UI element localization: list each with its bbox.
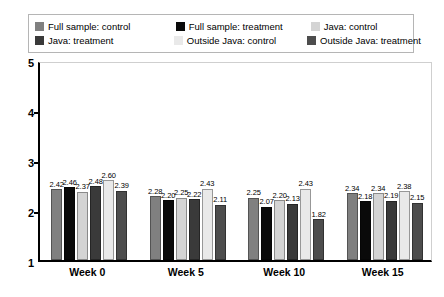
bar-slot: 2.60 <box>103 63 114 260</box>
bar-value-label: 2.38 <box>397 183 412 191</box>
bar[interactable] <box>373 193 384 260</box>
bar-slot: 2.37 <box>77 63 88 260</box>
bar[interactable] <box>313 219 324 260</box>
x-axis-tick-label: Week 0 <box>69 266 105 278</box>
bar-value-label: 2.43 <box>298 180 313 188</box>
bar-value-label: 1.82 <box>311 211 326 219</box>
legend-item-label: Java: control <box>324 21 378 32</box>
y-axis-tick-label: 5 <box>28 58 34 69</box>
legend-swatch-icon <box>311 22 320 31</box>
bar-group-bars: 2.252.072.202.132.431.82 <box>237 63 336 260</box>
bar-value-label: 2.13 <box>285 195 300 203</box>
bar-slot: 2.48 <box>90 63 101 260</box>
bar[interactable] <box>103 180 114 260</box>
bar[interactable] <box>248 198 259 261</box>
bar-slot: 2.43 <box>202 63 213 260</box>
bar-slot: 2.20 <box>163 63 174 260</box>
legend-item-full-sample-treatment: Full sample: treatment <box>176 21 311 32</box>
bar-slot: 2.28 <box>150 63 161 260</box>
plot-area: 123452.422.462.372.482.602.392.282.202.2… <box>38 62 432 262</box>
bar[interactable] <box>116 191 127 261</box>
chart-legend: Full sample: control Full sample: treatm… <box>28 14 414 53</box>
legend-swatch-icon <box>174 36 183 45</box>
bar[interactable] <box>202 189 213 261</box>
bar[interactable] <box>386 201 397 261</box>
bar[interactable] <box>360 201 371 260</box>
bar-slot: 2.19 <box>386 63 397 260</box>
bar[interactable] <box>274 200 285 260</box>
bar-slot: 2.42 <box>51 63 62 260</box>
bar-slot: 2.34 <box>347 63 358 260</box>
legend-item-java-control: Java: control <box>311 21 407 32</box>
bar[interactable] <box>77 192 88 261</box>
bar-value-label: 2.60 <box>101 172 116 180</box>
bar-group: 2.342.182.342.192.382.15 <box>336 63 435 260</box>
bar-group: 2.282.202.252.222.432.11 <box>139 63 238 260</box>
bar-value-label: 2.19 <box>384 192 399 200</box>
bar-slot: 2.20 <box>274 63 285 260</box>
legend-row: Java: treatment Outside Java: control Ou… <box>35 33 407 47</box>
bar[interactable] <box>176 198 187 261</box>
bar-slot: 2.18 <box>360 63 371 260</box>
legend-item-java-treatment: Java: treatment <box>35 35 174 46</box>
bar-slot: 2.43 <box>300 63 311 260</box>
bar[interactable] <box>90 186 101 260</box>
legend-swatch-icon <box>35 22 44 31</box>
legend-item-outside-java-treatment: Outside Java: treatment <box>307 35 407 46</box>
bar-slot: 2.11 <box>215 63 226 260</box>
bar-slot: 2.46 <box>64 63 75 260</box>
legend-item-full-sample-control: Full sample: control <box>35 21 176 32</box>
x-axis-tick-label: Week 15 <box>362 266 404 278</box>
bar-value-label: 2.18 <box>358 193 373 201</box>
bar-slot: 2.25 <box>176 63 187 260</box>
bar-slot: 2.25 <box>248 63 259 260</box>
bar[interactable] <box>189 199 200 260</box>
legend-item-outside-java-control: Outside Java: control <box>174 35 307 46</box>
legend-item-label: Full sample: control <box>48 21 130 32</box>
bar[interactable] <box>64 187 75 260</box>
bar-group-bars: 2.282.202.252.222.432.11 <box>139 63 238 260</box>
bar[interactable] <box>287 204 298 261</box>
bar-value-label: 2.15 <box>410 194 425 202</box>
bar-slot: 2.39 <box>116 63 127 260</box>
bar-slot: 2.38 <box>399 63 410 260</box>
bar-slot: 2.15 <box>412 63 423 260</box>
bar-slot: 2.13 <box>287 63 298 260</box>
bar[interactable] <box>261 207 272 261</box>
legend-swatch-icon <box>35 36 44 45</box>
legend-item-label: Full sample: treatment <box>189 21 283 32</box>
bar[interactable] <box>163 200 174 260</box>
legend-swatch-icon <box>307 36 316 45</box>
bar-slot: 2.34 <box>373 63 384 260</box>
bar-value-label: 2.39 <box>114 182 129 190</box>
x-axis-tick-label: Week 5 <box>168 266 204 278</box>
bar[interactable] <box>51 189 62 260</box>
bar-slot: 1.82 <box>313 63 324 260</box>
bar-group-bars: 2.342.182.342.192.382.15 <box>336 63 435 260</box>
bar[interactable] <box>399 191 410 260</box>
bar-value-label: 2.43 <box>200 180 215 188</box>
bar[interactable] <box>150 196 161 260</box>
bar-group: 2.422.462.372.482.602.39 <box>40 63 139 260</box>
plot-inner: 123452.422.462.372.482.602.392.282.202.2… <box>40 63 431 260</box>
bar-value-label: 2.11 <box>213 196 227 204</box>
legend-item-label: Java: treatment <box>48 35 113 46</box>
bar[interactable] <box>412 203 423 261</box>
bar[interactable] <box>347 193 358 260</box>
bar[interactable] <box>300 189 311 261</box>
legend-row: Full sample: control Full sample: treatm… <box>35 19 407 33</box>
legend-item-label: Outside Java: control <box>187 35 276 46</box>
bar[interactable] <box>215 205 226 261</box>
legend-item-label: Outside Java: treatment <box>320 35 421 46</box>
legend-swatch-icon <box>176 22 185 31</box>
y-axis-tick-label: 1 <box>28 258 34 269</box>
bar-group-bars: 2.422.462.372.482.602.39 <box>40 63 139 260</box>
bar-slot: 2.22 <box>189 63 200 260</box>
x-axis-tick-label: Week 10 <box>263 266 305 278</box>
bar-value-label: 2.22 <box>187 191 202 199</box>
bar-value-label: 2.25 <box>246 189 261 197</box>
bar-group: 2.252.072.202.132.431.82 <box>237 63 336 260</box>
bar-slot: 2.07 <box>261 63 272 260</box>
